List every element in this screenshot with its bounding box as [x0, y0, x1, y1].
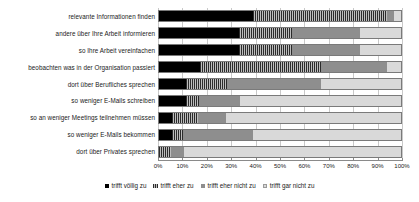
- category-label: so weniger E-Mails schreiben: [0, 97, 158, 104]
- legend-swatch-icon: [105, 184, 110, 189]
- chart-row: beobachten was in der Organisation passi…: [0, 59, 419, 76]
- bar-segment: [239, 45, 292, 55]
- x-tick-label: 90%: [372, 161, 384, 171]
- legend-swatch-icon: [263, 184, 268, 189]
- bar-track: [158, 61, 402, 73]
- x-tick-label: 10%: [176, 161, 188, 171]
- bar-segment: [360, 45, 401, 55]
- bar-segment: [159, 79, 186, 89]
- x-tick-label: 0%: [154, 161, 163, 171]
- chart-legend: trifft völlig zutrifft eher zutrifft ehe…: [0, 182, 419, 190]
- legend-label: trifft gar nicht zu: [270, 182, 315, 190]
- bar-track: [158, 10, 402, 22]
- x-axis-ticks: 0%10%20%30%40%50%60%70%80%90%100%: [158, 161, 402, 173]
- chart-row: andere über Ihre Arbeit informieren: [0, 25, 419, 42]
- bar-segment: [159, 147, 171, 157]
- bar-segment: [292, 45, 360, 55]
- bar-segment: [321, 79, 401, 89]
- chart-row: so an weniger Meetings teilnehmen müssen: [0, 109, 419, 126]
- bar-segment: [240, 96, 401, 106]
- x-tick-label: 20%: [201, 161, 213, 171]
- bar-segment: [159, 11, 253, 21]
- category-label: so Ihre Arbeit vereinfachen: [0, 47, 158, 54]
- stacked-bar-chart: relevante Informationen findenandere übe…: [0, 0, 419, 202]
- bar-segment: [186, 79, 227, 89]
- chart-row: so Ihre Arbeit vereinfachen: [0, 42, 419, 59]
- legend-item[interactable]: trifft völlig zu: [105, 182, 147, 190]
- x-tick-label: 100%: [394, 161, 409, 171]
- bar-segment: [200, 62, 321, 72]
- bar-segment: [321, 62, 386, 72]
- bar-segment: [227, 79, 321, 89]
- bar-segment: [394, 11, 401, 21]
- bar-segment: [159, 130, 172, 140]
- legend-item[interactable]: trifft eher zu: [153, 182, 193, 190]
- bar-segment: [172, 130, 183, 140]
- bar-track: [158, 129, 402, 141]
- x-tick-label: 70%: [323, 161, 335, 171]
- bar-track: [158, 78, 402, 90]
- bar-track: [158, 112, 402, 124]
- x-tick-label: 30%: [225, 161, 237, 171]
- chart-row: dort über Berufliches sprechen: [0, 76, 419, 93]
- category-label: relevante Informationen finden: [0, 13, 158, 20]
- bar-segment: [159, 113, 172, 123]
- chart-row: so weniger E-Mails bekommen: [0, 126, 419, 143]
- category-label: so weniger E-Mails bekommen: [0, 131, 158, 138]
- legend-item[interactable]: trifft gar nicht zu: [263, 182, 315, 190]
- category-label: beobachten was in der Organisation passi…: [0, 64, 158, 71]
- bar-segment: [159, 45, 239, 55]
- legend-label: trifft eher zu: [160, 182, 193, 190]
- bar-track: [158, 146, 402, 158]
- bar-segment: [360, 28, 401, 38]
- category-label: so an weniger Meetings teilnehmen müssen: [0, 114, 158, 121]
- bar-segment: [184, 147, 401, 157]
- bar-segment: [186, 96, 199, 106]
- bar-segment: [387, 62, 402, 72]
- legend-swatch-icon: [201, 184, 206, 189]
- bar-segment: [159, 96, 186, 106]
- bar-segment: [171, 147, 184, 157]
- bar-segment: [199, 96, 240, 106]
- bar-segment: [292, 28, 360, 38]
- legend-item[interactable]: trifft eher nicht zu: [201, 182, 256, 190]
- category-label: andere über Ihre Arbeit informieren: [0, 30, 158, 37]
- bar-track: [158, 27, 402, 39]
- bar-track: [158, 44, 402, 56]
- bar-segment: [159, 62, 200, 72]
- bar-segment: [253, 130, 401, 140]
- x-tick-label: 40%: [250, 161, 262, 171]
- legend-label: trifft völlig zu: [112, 182, 147, 190]
- legend-swatch-icon: [153, 184, 158, 189]
- bar-segment: [198, 113, 226, 123]
- bar-segment: [239, 28, 292, 38]
- chart-plot-area: relevante Informationen findenandere übe…: [0, 8, 419, 160]
- bar-segment: [159, 28, 239, 38]
- chart-row: relevante Informationen finden: [0, 8, 419, 25]
- bar-segment: [226, 113, 401, 123]
- legend-label: trifft eher nicht zu: [208, 182, 256, 190]
- bar-segment: [183, 130, 253, 140]
- chart-row: dort über Privates sprechen: [0, 143, 419, 160]
- x-tick-label: 80%: [347, 161, 359, 171]
- bar-segment: [172, 113, 197, 123]
- bar-segment: [387, 11, 394, 21]
- x-tick-label: 50%: [274, 161, 286, 171]
- chart-row: so weniger E-Mails schreiben: [0, 92, 419, 109]
- category-label: dort über Privates sprechen: [0, 148, 158, 155]
- x-tick-label: 60%: [298, 161, 310, 171]
- bar-segment: [253, 11, 386, 21]
- bar-track: [158, 95, 402, 107]
- category-label: dort über Berufliches sprechen: [0, 81, 158, 88]
